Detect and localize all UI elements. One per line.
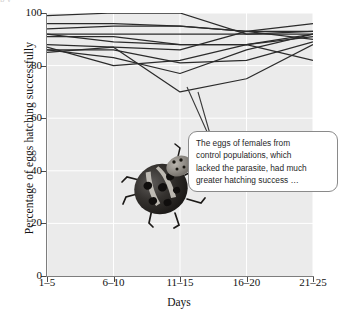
callout-line-3: lacked the parasite, had much <box>196 162 331 174</box>
x-tick-label-3: 16–20 <box>233 276 261 288</box>
x-tick-label-0: 1–5 <box>39 276 56 288</box>
x-tick-label-2: 11–15 <box>166 276 193 288</box>
x-axis-tick-labels: 1–56–1011–1516–2021–25 <box>0 276 345 292</box>
x-axis-title: Days <box>44 296 314 308</box>
callout-box: The eggs of females from control populat… <box>188 131 338 192</box>
callout-line-2: control populations, which <box>196 149 331 161</box>
cropped-title-sliver: p y <box>0 0 345 2</box>
y-axis-spine <box>46 13 47 277</box>
callout-line-4: greater hatching success … <box>196 174 331 186</box>
callout-line-1: The eggs of females from <box>196 137 331 149</box>
x-tick-label-1: 6–10 <box>103 276 125 288</box>
figure: p y <box>0 0 345 319</box>
y-axis-title: Percentage of eggs hatching successfully <box>23 13 35 263</box>
x-tick-label-4: 21–25 <box>299 276 327 288</box>
